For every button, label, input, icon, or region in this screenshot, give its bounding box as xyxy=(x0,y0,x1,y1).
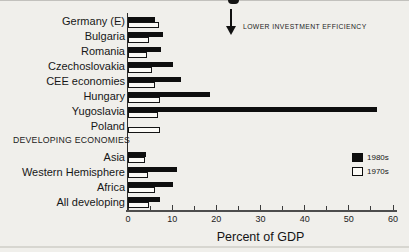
minor-tick xyxy=(282,206,283,210)
category-label: Africa xyxy=(0,181,125,194)
bar-1970s xyxy=(128,67,152,73)
bar-1980s xyxy=(128,107,377,112)
category-label: Germany (E) xyxy=(0,15,125,28)
category-label: All developing xyxy=(0,196,125,209)
category-label: Poland xyxy=(0,120,125,133)
minor-tick xyxy=(150,206,151,210)
bar-1970s xyxy=(128,112,158,118)
x-axis-title: Percent of GDP xyxy=(128,230,393,244)
x-axis-tick-label: 10 xyxy=(160,214,184,224)
category-label: CEE economies xyxy=(0,75,125,88)
legend-label-1980s: 1980s xyxy=(367,153,389,162)
legend-swatch-1980s xyxy=(352,153,363,162)
bar-1970s xyxy=(128,127,160,133)
category-label: Yugoslavia xyxy=(0,105,125,118)
major-tick xyxy=(172,205,173,210)
minor-tick xyxy=(238,206,239,210)
down-arrow-icon xyxy=(230,9,232,27)
bar-1970s xyxy=(128,52,147,58)
section-header-developing-economies: DEVELOPING ECONOMIES xyxy=(13,135,130,145)
x-axis-tick-label: 50 xyxy=(337,214,361,224)
category-label: Western Hemisphere xyxy=(0,166,125,179)
bottom-rule xyxy=(0,246,409,248)
cutoff-text-artifact xyxy=(228,0,239,4)
major-tick xyxy=(260,205,261,210)
chart-figure: LOWER INVESTMENT EFFICIENCY 010203040506… xyxy=(0,0,409,252)
bar-1970s xyxy=(128,172,148,178)
bar-1970s xyxy=(128,37,149,43)
major-tick xyxy=(304,205,305,210)
x-axis-tick-label: 40 xyxy=(293,214,317,224)
x-axis-tick-label: 60 xyxy=(381,214,405,224)
major-tick xyxy=(348,205,349,210)
category-label: Bulgaria xyxy=(0,30,125,43)
x-axis-tick-label: 20 xyxy=(204,214,228,224)
bar-1970s xyxy=(128,202,149,208)
bar-1970s xyxy=(128,97,160,103)
down-arrow-icon xyxy=(226,26,236,35)
category-label: Asia xyxy=(0,151,125,164)
major-tick xyxy=(216,205,217,210)
annotation-label: LOWER INVESTMENT EFFICIENCY xyxy=(243,23,367,30)
x-axis-tick-label: 0 xyxy=(116,214,140,224)
category-label: Czechoslovakia xyxy=(0,60,125,73)
x-axis-line xyxy=(126,210,397,212)
legend-swatch-1970s xyxy=(352,167,363,176)
x-axis-tick-label: 30 xyxy=(249,214,273,224)
legend-label-1970s: 1970s xyxy=(367,167,389,176)
minor-tick xyxy=(194,206,195,210)
bar-1970s xyxy=(128,157,145,163)
major-tick xyxy=(393,205,394,210)
bar-1970s xyxy=(128,82,155,88)
category-label: Romania xyxy=(0,45,125,58)
bar-1970s xyxy=(128,187,155,193)
top-rule xyxy=(0,0,409,1)
minor-tick xyxy=(326,206,327,210)
category-label: Hungary xyxy=(0,90,125,103)
minor-tick xyxy=(370,206,371,210)
bar-1970s xyxy=(128,22,159,28)
